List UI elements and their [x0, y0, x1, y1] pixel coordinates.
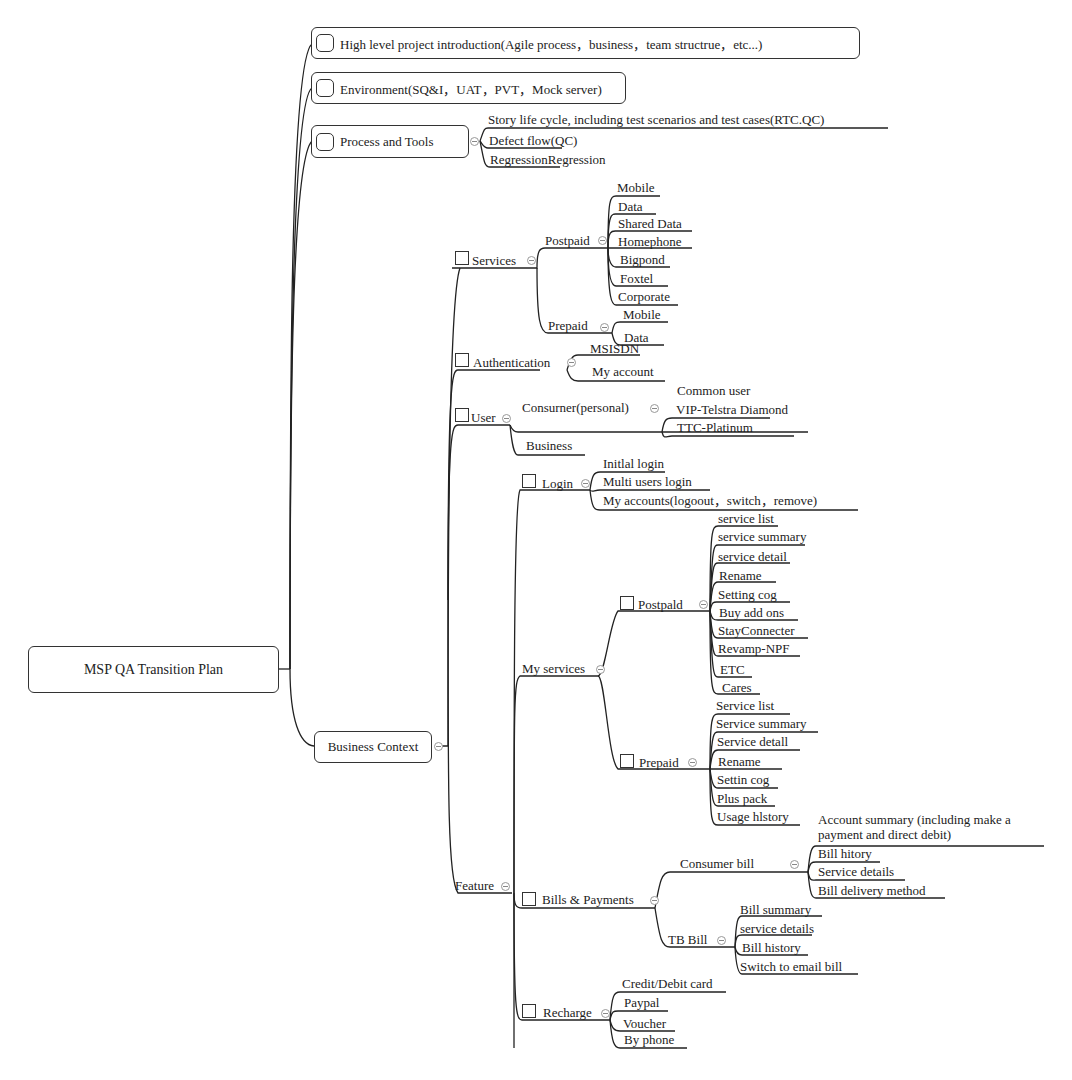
- tb-bill-label[interactable]: TB Bill: [668, 932, 707, 947]
- node-business-context[interactable]: Business Context: [314, 731, 432, 763]
- collapse-icon[interactable]: [501, 882, 510, 891]
- bill-item[interactable]: Service details: [818, 864, 894, 879]
- authentication-label[interactable]: Authentication: [473, 355, 550, 370]
- user-item[interactable]: TTC-Platinum: [677, 420, 753, 435]
- postpaid-item[interactable]: Setting cog: [718, 587, 777, 602]
- collapse-icon[interactable]: [600, 323, 609, 332]
- prepaid-item[interactable]: Service summary: [716, 716, 807, 731]
- recharge-item[interactable]: Voucher: [623, 1016, 666, 1031]
- collapse-icon[interactable]: [650, 896, 659, 905]
- auth-item[interactable]: MSISDN: [590, 341, 639, 356]
- process-item[interactable]: RegressionRegression: [490, 152, 606, 167]
- collapse-icon[interactable]: [790, 860, 799, 869]
- collapse-icon[interactable]: [717, 936, 726, 945]
- process-label: Process and Tools: [340, 134, 433, 150]
- login-item[interactable]: Multi users login: [603, 474, 692, 489]
- collapse-icon[interactable]: [470, 137, 479, 146]
- bills-label[interactable]: Bills & Payments: [542, 892, 634, 907]
- collapse-icon[interactable]: [567, 358, 576, 367]
- node-environment[interactable]: Environment(SQ&I，UAT，PVT，Mock server): [311, 72, 626, 104]
- tb-item[interactable]: Bill summary: [740, 902, 811, 917]
- process-item[interactable]: Story life cycle, including test scenari…: [488, 112, 824, 127]
- tb-item[interactable]: Bill history: [742, 940, 801, 955]
- checkbox-icon[interactable]: [316, 133, 334, 151]
- collapse-icon[interactable]: [434, 742, 443, 751]
- checkbox-icon[interactable]: [316, 79, 334, 97]
- checkbox-icon[interactable]: [455, 408, 469, 422]
- node-intro[interactable]: High level project introduction(Agile pr…: [311, 27, 860, 59]
- collapse-icon[interactable]: [502, 414, 511, 423]
- collapse-icon[interactable]: [596, 665, 605, 674]
- postpaid-item[interactable]: Revamp-NPF: [718, 641, 790, 656]
- recharge-item[interactable]: Paypal: [624, 995, 659, 1010]
- checkbox-icon[interactable]: [455, 353, 469, 367]
- postpaid-item[interactable]: ETC: [720, 662, 745, 677]
- collapse-icon[interactable]: [581, 479, 590, 488]
- login-item[interactable]: My accounts(logoout，switch，remove): [603, 493, 817, 508]
- my-prepaid-label[interactable]: Prepaid: [639, 755, 679, 770]
- consumer-bill-label[interactable]: Consumer bill: [680, 856, 754, 871]
- my-postpaid-label[interactable]: Postpald: [638, 597, 683, 612]
- business-label: Business Context: [328, 739, 419, 755]
- checkbox-icon[interactable]: [620, 596, 634, 610]
- prepaid-item[interactable]: Service list: [716, 698, 774, 713]
- process-item[interactable]: Defect flow(QC): [489, 133, 577, 148]
- root-node[interactable]: MSP QA Transition Plan: [28, 646, 279, 693]
- checkbox-icon[interactable]: [316, 34, 334, 52]
- prepaid-item[interactable]: Rename: [718, 754, 761, 769]
- service-item[interactable]: Data: [618, 199, 643, 214]
- recharge-item[interactable]: Credit/Debit card: [622, 976, 713, 991]
- postpaid-item[interactable]: StayConnecter: [718, 623, 795, 638]
- environment-label: Environment(SQ&I，UAT，PVT，Mock server): [340, 79, 602, 98]
- service-item[interactable]: Bigpond: [620, 252, 665, 267]
- feature-label[interactable]: Feature: [455, 878, 494, 893]
- service-item[interactable]: Homephone: [618, 234, 682, 249]
- bill-item[interactable]: Bill hitory: [818, 846, 872, 861]
- prepaid-item[interactable]: Plus pack: [717, 791, 767, 806]
- collapse-icon[interactable]: [699, 600, 708, 609]
- postpaid-label[interactable]: Postpaid: [545, 233, 590, 248]
- prepaid-item[interactable]: Usage hlstory: [717, 809, 789, 824]
- prepaid-label[interactable]: Prepaid: [548, 318, 588, 333]
- user-item[interactable]: Common user: [677, 383, 750, 398]
- postpaid-item[interactable]: Buy add ons: [719, 605, 784, 620]
- postpaid-item[interactable]: service list: [718, 511, 774, 526]
- user-item[interactable]: VIP-Telstra Diamond: [676, 402, 788, 417]
- postpaid-item[interactable]: service detail: [718, 549, 787, 564]
- checkbox-icon[interactable]: [522, 474, 536, 488]
- service-item[interactable]: Mobile: [617, 180, 655, 195]
- service-item[interactable]: Corporate: [618, 289, 670, 304]
- checkbox-icon[interactable]: [522, 892, 536, 906]
- checkbox-icon[interactable]: [620, 754, 634, 768]
- node-process-tools[interactable]: Process and Tools: [311, 125, 469, 158]
- collapse-icon[interactable]: [688, 758, 697, 767]
- service-item[interactable]: Mobile: [623, 307, 661, 322]
- service-item[interactable]: Shared Data: [618, 216, 682, 231]
- login-item[interactable]: Initlal login: [603, 456, 664, 471]
- tb-item[interactable]: Switch to email bill: [740, 959, 842, 974]
- services-label[interactable]: Services: [472, 253, 516, 268]
- prepaid-item[interactable]: Service detall: [717, 734, 788, 749]
- checkbox-icon[interactable]: [455, 251, 469, 265]
- auth-item[interactable]: My account: [592, 364, 654, 379]
- bill-item[interactable]: Account summary (including make a paymen…: [818, 812, 1043, 842]
- postpaid-item[interactable]: Cares: [722, 680, 752, 695]
- consumer-label[interactable]: Consurner(personal): [522, 400, 629, 415]
- collapse-icon[interactable]: [650, 404, 659, 413]
- my-services-label[interactable]: My services: [522, 661, 585, 676]
- service-item[interactable]: Foxtel: [620, 271, 653, 286]
- postpaid-item[interactable]: service summary: [718, 529, 806, 544]
- login-label[interactable]: Login: [542, 476, 573, 491]
- collapse-icon[interactable]: [527, 256, 536, 265]
- collapse-icon[interactable]: [598, 236, 607, 245]
- user-label[interactable]: User: [471, 410, 496, 425]
- collapse-icon[interactable]: [601, 1009, 610, 1018]
- business-user-label[interactable]: Business: [526, 438, 572, 453]
- bill-item[interactable]: Bill delivery method: [818, 883, 926, 898]
- recharge-label[interactable]: Recharge: [543, 1005, 592, 1020]
- prepaid-item[interactable]: Settin cog: [717, 772, 769, 787]
- checkbox-icon[interactable]: [522, 1004, 536, 1018]
- recharge-item[interactable]: By phone: [624, 1032, 674, 1047]
- tb-item[interactable]: service details: [740, 921, 814, 936]
- postpaid-item[interactable]: Rename: [719, 568, 762, 583]
